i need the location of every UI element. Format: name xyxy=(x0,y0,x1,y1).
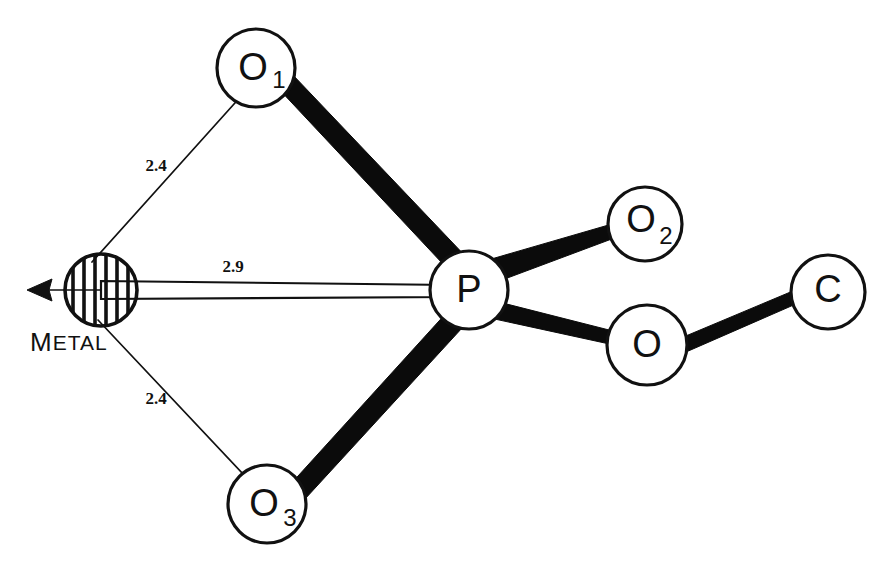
bond-metal-o3 xyxy=(98,320,260,492)
atom-p: P xyxy=(430,251,508,329)
bond-metal-o1 xyxy=(92,84,252,262)
atom-o-bridge-label: O xyxy=(632,323,662,365)
atom-o1-label: O xyxy=(238,46,268,88)
structure-canvas: O 1 O 3 P O 2 O xyxy=(0,0,890,561)
bond-o-bridge-c xyxy=(681,288,805,352)
atom-o1: O 1 xyxy=(217,29,295,107)
atom-o3-label: O xyxy=(249,482,279,524)
metal-caption-rest: ETAL xyxy=(53,331,108,354)
atom-o2-subscript: 2 xyxy=(659,222,672,249)
distance-label-metal-o1: 2.4 xyxy=(145,156,167,175)
svg-text:METAL: METAL xyxy=(30,327,108,357)
metal-caption-first-letter: M xyxy=(30,327,53,357)
distance-label-metal-p: 2.9 xyxy=(222,257,243,276)
metal-caption: METAL xyxy=(30,327,108,357)
connector-metal-p xyxy=(101,281,452,299)
atom-o-bridge: O xyxy=(607,305,687,385)
atom-p-label: P xyxy=(456,268,481,310)
connector-metal-p-body xyxy=(101,281,452,299)
atom-c: C xyxy=(791,255,865,329)
metal-arrow-head xyxy=(27,279,52,301)
atom-o2: O 2 xyxy=(608,187,682,261)
atom-o3: O 3 xyxy=(228,465,306,543)
atom-o3-subscript: 3 xyxy=(283,504,296,531)
atom-o1-subscript: 1 xyxy=(272,66,285,93)
atom-c-label: C xyxy=(814,268,841,310)
atom-o2-label: O xyxy=(626,198,656,240)
distance-label-metal-o3: 2.4 xyxy=(145,389,167,408)
molecular-diagram-figure: O 1 O 3 P O 2 O xyxy=(0,0,890,561)
